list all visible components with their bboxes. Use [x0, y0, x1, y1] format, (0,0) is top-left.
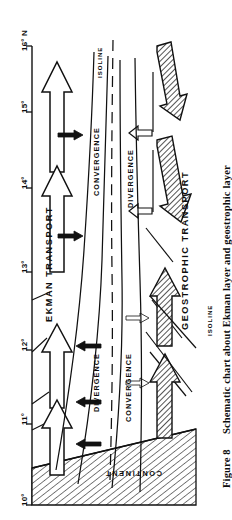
isoline-dashed	[110, 40, 113, 480]
convergence-label-lower: CONVERGENCE	[124, 353, 133, 422]
geostrophic-arrow-1	[157, 42, 187, 120]
isoline-label-bottom: ISOLINE	[206, 305, 213, 336]
hollow-arrow-left-1	[129, 126, 152, 140]
small-arrow-right-3	[126, 313, 149, 323]
isoline-label-top: ISOLINE	[96, 47, 103, 78]
geostrophic-arrow-3	[150, 268, 180, 346]
axis-tick-label-10: 10°	[20, 493, 29, 506]
geostrophic-transport-label: GEOSTROPHIC TRANSPORT	[180, 171, 190, 330]
axis-tick-label-13: 13°	[20, 260, 29, 273]
latitude-axis	[26, 46, 32, 505]
geostrophic-arrow-4	[150, 354, 180, 438]
isoline-dashed-1	[110, 40, 113, 480]
continent-label: CONTINENT	[104, 469, 162, 478]
figure-container: 16° N 15° 14° 13° 12° 11° 10° EKMAN TRAN…	[0, 0, 232, 520]
small-solid-arrows-right	[58, 130, 149, 388]
axis-tick-label-12: 12°	[20, 338, 29, 351]
ekman-transport-label: EKMAN TRANSPORT	[44, 206, 54, 322]
isoline-solid-3	[112, 60, 122, 488]
axis-tick-label-15: 15°	[20, 100, 29, 113]
schematic-diagram	[0, 0, 232, 520]
divergence-label-lower: DIVERGENCE	[92, 353, 101, 412]
axis-tick-label-11: 11°	[20, 413, 29, 425]
axis-tick-label-14: 14°	[20, 176, 29, 189]
divergence-label-upper: DIVERGENCE	[126, 149, 135, 208]
figure-caption-number: Figure 8	[221, 449, 232, 488]
isoline-solid-4	[135, 58, 142, 492]
small-arrow-left-3	[76, 439, 101, 449]
convergence-label-upper: CONVERGENCE	[92, 127, 101, 196]
ekman-arrow-1	[42, 62, 72, 172]
axis-tick-label-16: 16° N	[20, 30, 29, 51]
figure-caption-text: Schematic chart about Ekman layer and ge…	[221, 165, 232, 434]
